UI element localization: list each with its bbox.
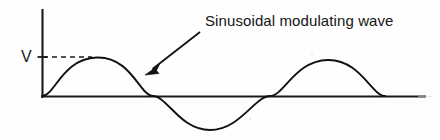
annotation-arrow-head [145, 65, 160, 76]
annotation-arrow-shaft [153, 32, 201, 69]
sine-wave-curve [42, 57, 385, 130]
annotation-label: Sinusoidal modulating wave [205, 13, 394, 28]
y-axis-amplitude-label: V [21, 49, 32, 65]
sinusoidal-wave-figure: V Sinusoidal modulating wave [0, 0, 440, 140]
